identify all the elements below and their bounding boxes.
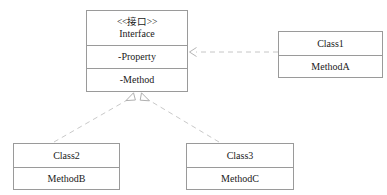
uml-class-class1[interactable]: Class1 MethodA (278, 31, 383, 78)
interface-operation-method: -Method (120, 74, 154, 86)
edge-class2-hollow-triangle-arrowhead (126, 93, 135, 101)
uml-class-interface[interactable]: <<接口>> Interface -Property -Method (86, 10, 188, 92)
interface-operations-compartment: -Method (87, 68, 187, 91)
class2-header-compartment: Class2 (14, 144, 119, 167)
class3-header-compartment: Class3 (187, 144, 293, 167)
uml-class-class3[interactable]: Class3 MethodC (186, 143, 294, 190)
class2-operations-compartment: MethodB (14, 167, 119, 189)
edge-class3-hollow-triangle-arrowhead (140, 93, 149, 101)
edge-class2-to-interface (54, 93, 135, 142)
uml-class-class2[interactable]: Class2 MethodB (13, 143, 120, 190)
class3-operation-methodc: MethodC (221, 173, 259, 185)
class2-name: Class2 (53, 150, 80, 162)
interface-name: Interface (119, 28, 155, 40)
interface-stereotype: <<接口>> (117, 17, 157, 28)
class1-operation-methoda: MethodA (311, 61, 349, 73)
edge-class1-to-interface (190, 48, 279, 57)
edge-class3-line (147, 99, 219, 142)
interface-header-compartment: <<接口>> Interface (87, 11, 187, 45)
interface-attributes-compartment: -Property (87, 45, 187, 68)
class1-header-compartment: Class1 (279, 32, 382, 55)
interface-attribute-property: -Property (118, 51, 156, 63)
class3-name: Class3 (227, 150, 254, 162)
uml-class-diagram-canvas: <<接口>> Interface -Property -Method Class… (0, 0, 387, 195)
class2-operation-methodb: MethodB (48, 173, 86, 185)
class3-operations-compartment: MethodC (187, 167, 293, 189)
edge-class3-to-interface (140, 93, 219, 142)
class1-operations-compartment: MethodA (279, 55, 382, 77)
edge-class2-line (54, 99, 129, 142)
edge-class1-open-arrowhead (190, 48, 197, 57)
class1-name: Class1 (317, 38, 344, 50)
